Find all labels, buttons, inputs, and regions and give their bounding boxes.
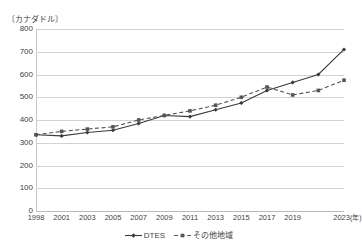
x-axis-tick-label: 2005 — [105, 214, 122, 222]
y-axis-tick-label: 100 — [3, 184, 33, 192]
y-axis-unit-label: 〔カナダドル〕 — [7, 13, 63, 24]
x-axis-tick-label: 2023(年) — [333, 214, 361, 222]
y-axis-tick-label: 200 — [3, 162, 33, 170]
data-point — [111, 128, 115, 132]
y-axis-tick-labels: 8007006005004003002001000 — [0, 29, 33, 211]
data-point — [60, 130, 64, 134]
legend-entry-その他地域[interactable]: その他地域 — [174, 231, 233, 240]
x-axis-tick-label: 2007 — [130, 214, 147, 222]
x-axis-tick-label: 1998 — [28, 214, 45, 222]
data-point — [342, 78, 346, 82]
x-axis-tick-label: 2013 — [207, 214, 224, 222]
y-axis-tick-label: 800 — [3, 25, 33, 33]
data-point — [34, 133, 38, 137]
legend-label: その他地域 — [193, 232, 233, 240]
data-point — [291, 93, 295, 97]
data-point — [265, 85, 269, 89]
data-point — [111, 125, 115, 129]
x-axis-tick-label: 2015 — [233, 214, 250, 222]
legend-marker-icon — [125, 231, 142, 240]
legend-marker-icon — [174, 231, 191, 240]
legend-entry-DTES[interactable]: DTES — [125, 231, 165, 240]
chart-legend: DTESその他地域 — [0, 231, 358, 240]
plot-area — [36, 29, 344, 211]
y-axis-tick-label: 700 — [3, 48, 33, 56]
data-point — [239, 101, 243, 105]
data-point — [137, 118, 141, 122]
x-axis-tick-label: 2003 — [79, 214, 96, 222]
data-point — [240, 95, 244, 99]
data-series-layer — [36, 29, 344, 211]
data-point — [317, 89, 321, 93]
series-line-その他地域 — [36, 80, 344, 135]
y-axis-tick-label: 600 — [3, 71, 33, 79]
data-point — [137, 121, 141, 125]
x-axis-tick-label: 2001 — [53, 214, 70, 222]
x-axis-unit-suffix: (年) — [350, 214, 362, 221]
data-point — [214, 108, 218, 112]
data-point — [188, 114, 192, 118]
data-point — [188, 109, 192, 113]
gridline — [36, 211, 344, 212]
y-axis-tick-label: 400 — [3, 116, 33, 124]
x-axis-tick-labels: 1998200120032005200720092011201320152017… — [36, 214, 344, 226]
data-point — [291, 80, 295, 84]
series-line-DTES — [36, 49, 344, 135]
x-axis-tick-label: 2019 — [284, 214, 301, 222]
x-axis-tick-label: 2011 — [182, 214, 198, 222]
data-point — [86, 127, 90, 131]
x-axis-tick-label: 2009 — [156, 214, 173, 222]
data-point — [214, 103, 218, 107]
x-axis-tick-label: 2017 — [259, 214, 276, 222]
data-point — [60, 134, 64, 138]
data-point — [85, 130, 89, 134]
y-axis-tick-label: 300 — [3, 139, 33, 147]
data-point — [163, 114, 167, 118]
data-point — [265, 88, 269, 92]
y-axis-tick-label: 500 — [3, 93, 33, 101]
legend-label: DTES — [144, 232, 165, 240]
